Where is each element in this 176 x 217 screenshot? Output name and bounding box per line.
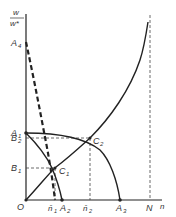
a1-a3-curve <box>26 133 120 200</box>
label-n2: n̄ 2 <box>83 204 92 214</box>
svg-text:A: A <box>115 203 122 213</box>
label-a3: A 3 <box>115 203 127 214</box>
svg-text:2: 2 <box>66 208 71 214</box>
label-n-cap: N <box>146 203 153 213</box>
svg-text:1: 1 <box>66 171 69 177</box>
svg-text:1: 1 <box>54 208 57 214</box>
svg-text:4: 4 <box>18 43 22 49</box>
point-origin <box>24 198 27 201</box>
svg-text:3: 3 <box>123 208 127 214</box>
diagram: w w* A 4 A 1 B 2 B 1 O n̄ <box>0 0 176 217</box>
svg-text:A: A <box>10 38 17 48</box>
svg-text:n̄: n̄ <box>83 204 88 213</box>
point-a1 <box>24 131 28 135</box>
label-a2: A 2 <box>59 203 71 214</box>
svg-text:2: 2 <box>17 138 22 144</box>
point-c1 <box>54 167 57 170</box>
label-c2: C 2 <box>93 136 104 147</box>
label-b1: B 1 <box>11 163 21 174</box>
point-a2 <box>60 198 64 202</box>
y-label-denominator: w* <box>10 19 20 28</box>
svg-text:2: 2 <box>88 208 92 214</box>
svg-text:1: 1 <box>18 168 21 174</box>
label-c1: C 1 <box>59 166 69 177</box>
svg-text:B: B <box>11 163 17 173</box>
y-label-numerator: w <box>13 8 20 17</box>
svg-text:C: C <box>93 136 100 146</box>
y-axis-label: w w* <box>10 8 24 28</box>
svg-text:2: 2 <box>99 141 104 147</box>
label-a4: A 4 <box>10 38 22 49</box>
svg-text:n̄: n̄ <box>48 204 53 213</box>
a4-dashed-curve <box>26 42 55 200</box>
label-n1: n̄ 1 <box>48 204 57 214</box>
svg-text:B: B <box>11 133 17 143</box>
rising-curve <box>26 22 148 200</box>
point-a3 <box>118 198 122 202</box>
x-axis-label: n <box>160 202 165 211</box>
svg-text:C: C <box>59 166 66 176</box>
label-origin: O <box>17 202 24 212</box>
svg-text:A: A <box>59 203 66 213</box>
point-c2 <box>89 137 92 140</box>
